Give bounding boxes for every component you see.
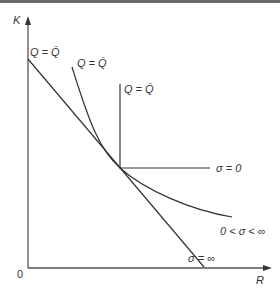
isoquant-label-smooth: Q = Q̄: [77, 57, 107, 69]
y-axis-arrow-icon: [25, 16, 31, 25]
x-axis-label: R: [256, 274, 264, 286]
isoquant-line-perfect-substitutes: [28, 59, 204, 267]
sigma-between-label: 0 < σ < ∞: [220, 225, 266, 237]
isoquant-leontief: [120, 84, 210, 168]
origin-label: 0: [17, 268, 23, 280]
sigma-infinity-label: σ = ∞: [188, 252, 215, 264]
sigma-zero-label: σ = 0: [216, 162, 242, 174]
isoquant-label-perfect-substitutes: Q = Q̄: [30, 46, 60, 58]
isoquant-label-leontief: Q = Q̄: [124, 83, 154, 95]
isoquant-diagram: K R 0 Q = Q̄ σ = ∞ Q = Q̄ 0 < σ < ∞ Q = …: [0, 0, 280, 292]
y-axis-label: K: [13, 14, 21, 26]
x-axis-arrow-icon: [263, 265, 272, 271]
